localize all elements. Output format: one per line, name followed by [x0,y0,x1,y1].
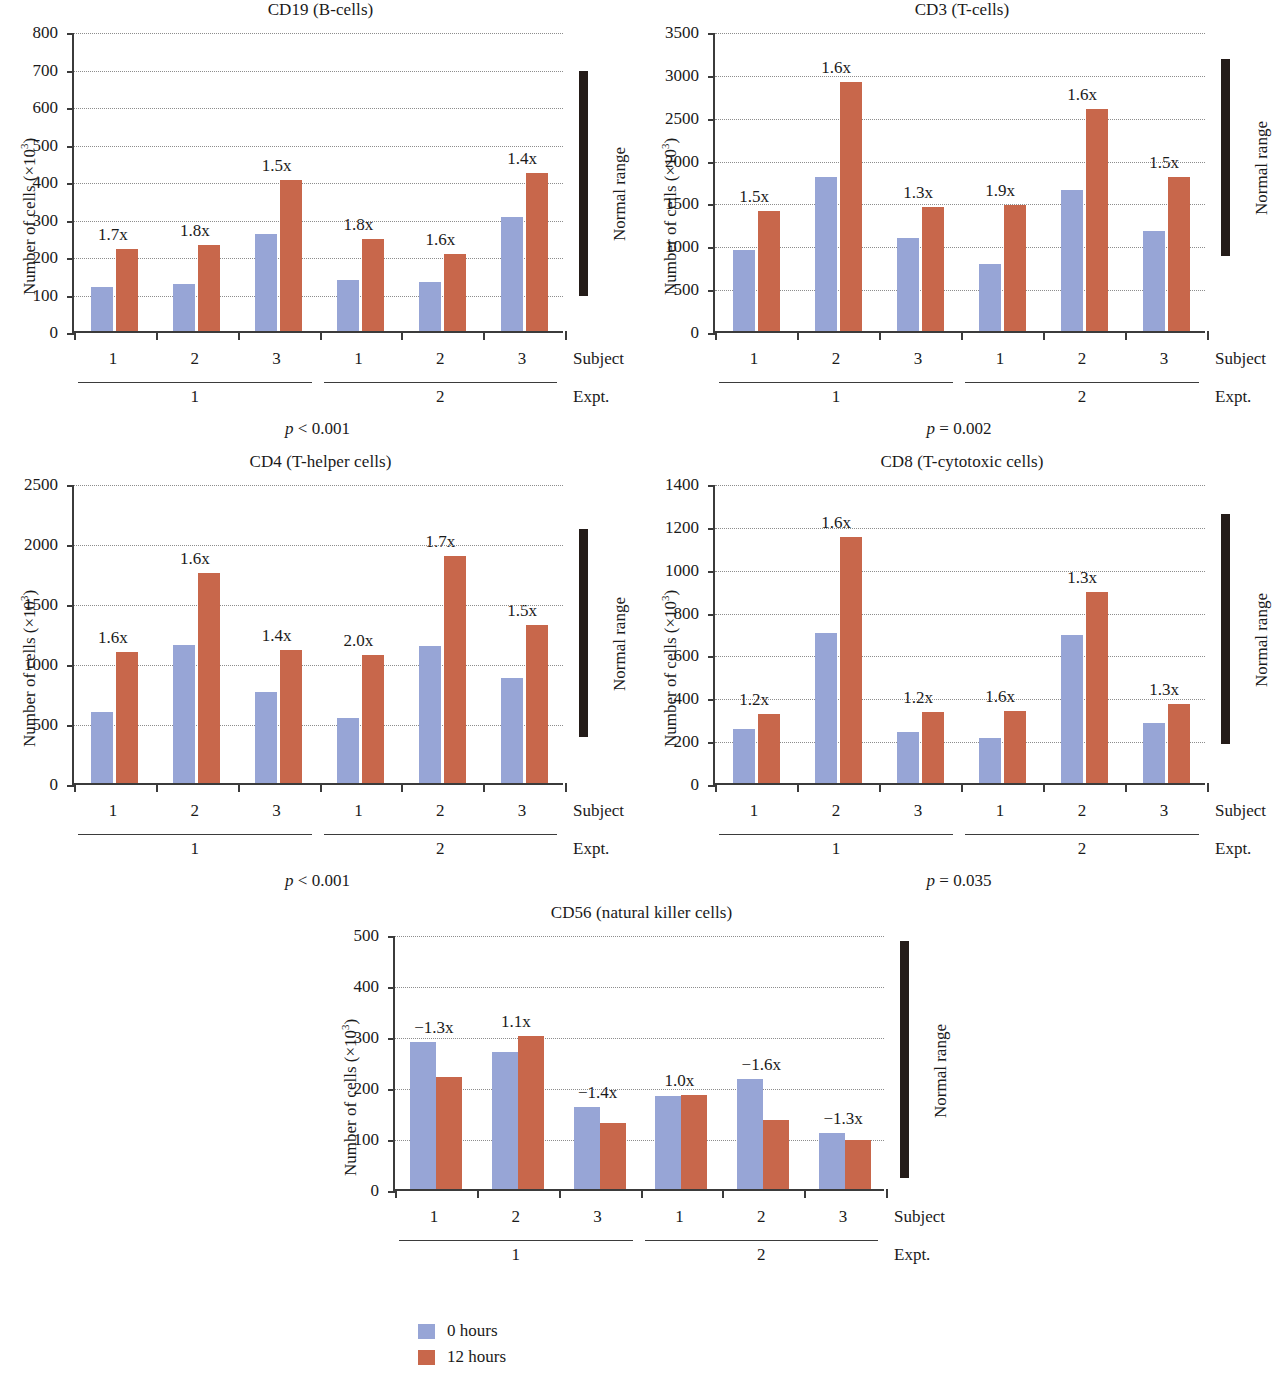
subject-tick-label: 3 [1160,801,1169,821]
x-tick [565,783,567,792]
y-tick [708,614,715,616]
y-tick [67,33,74,35]
bar-group [483,485,565,783]
y-tick [708,290,715,292]
y-tick [67,146,74,148]
y-tick [388,1191,395,1193]
bar-group [74,485,156,783]
x-tick [559,1189,561,1198]
plot-area-cd3 [713,33,1205,333]
legend-label: 0 hours [447,1321,498,1341]
y-tick [67,785,74,787]
y-tick-label: 200 [641,732,699,752]
y-tick [708,76,715,78]
legend-label: 12 hours [447,1347,506,1367]
x-tick [238,783,240,792]
bar-zero-hours [897,732,919,783]
subject-axis-caption: Subject [573,349,624,369]
bar-group [401,485,483,783]
subject-tick-label: 1 [750,349,759,369]
y-tick [708,742,715,744]
y-tick [708,333,715,335]
bar-twelve-hours [198,245,220,331]
expt-group-label: 2 [436,387,445,407]
normal-range-bar [1221,514,1230,744]
bar-group [156,33,238,331]
y-tick-label: 400 [0,173,58,193]
plot-area-cd4 [72,485,563,785]
subject-tick-label: 3 [518,801,527,821]
expt-axis-caption: Expt. [573,387,609,407]
p-value-label: p < 0.001 [285,419,350,439]
bar-twelve-hours [922,207,944,331]
subject-tick-label: 3 [914,801,923,821]
bar-group [804,936,886,1189]
subject-tick-label: 2 [757,1207,766,1227]
expt-group-label: 1 [512,1245,521,1265]
bar-twelve-hours [362,655,384,783]
bar-group [641,936,723,1189]
chart-panel-cd4: CD4 (T-helper cells)Number of cells (×10… [0,452,641,897]
subject-tick-label: 3 [518,349,527,369]
bar-twelve-hours [840,82,862,331]
bar-twelve-hours [1004,711,1026,783]
y-tick [708,162,715,164]
bar-group [797,33,879,331]
bar-twelve-hours [1004,205,1026,331]
bar-twelve-hours [280,650,302,783]
y-tick-label: 800 [641,604,699,624]
x-tick [886,1189,888,1198]
y-tick-label: 0 [321,1181,379,1201]
bar-zero-hours [1061,635,1083,783]
bar-twelve-hours [280,180,302,331]
x-tick [722,1189,724,1198]
bar-twelve-hours [362,239,384,331]
y-tick-label: 400 [641,689,699,709]
y-tick-label: 1000 [641,561,699,581]
subject-tick-label: 2 [191,349,200,369]
y-tick [67,333,74,335]
y-tick [67,71,74,73]
y-tick [388,1038,395,1040]
bar-zero-hours [897,238,919,331]
bar-zero-hours [410,1042,436,1189]
normal-range-bar [579,71,588,296]
subject-tick-label: 2 [512,1207,521,1227]
subject-tick-label: 2 [832,349,841,369]
y-tick-label: 1500 [641,194,699,214]
x-tick [565,331,567,340]
legend-swatch-blue [418,1324,435,1339]
bar-group [395,936,477,1189]
bar-group [797,485,879,783]
bar-twelve-hours [116,249,138,332]
x-tick [320,331,322,340]
chart-panel-cd8: CD8 (T-cytotoxic cells)Number of cells (… [641,452,1283,897]
x-tick [961,783,963,792]
y-tick-label: 100 [0,286,58,306]
bar-group [715,33,797,331]
y-tick [67,485,74,487]
bar-group [1125,485,1207,783]
x-tick [483,783,485,792]
bar-group [74,33,156,331]
bar-group [961,33,1043,331]
expt-group-rule [399,1240,633,1241]
bar-zero-hours [501,678,523,783]
expt-group-label: 1 [191,839,200,859]
bar-twelve-hours [600,1123,626,1189]
x-tick [715,783,717,792]
y-tick [67,725,74,727]
x-tick [879,331,881,340]
x-tick [879,783,881,792]
chart-title-cd19: CD19 (B-cells) [0,0,641,20]
p-value-label: p = 0.002 [927,419,992,439]
bar-twelve-hours [758,211,780,331]
x-tick [641,1189,643,1198]
bar-twelve-hours [1168,704,1190,783]
y-tick-label: 1200 [641,518,699,538]
bar-twelve-hours [840,537,862,783]
y-tick-label: 3000 [641,66,699,86]
x-tick [1207,331,1209,340]
subject-tick-label: 3 [272,801,281,821]
bar-zero-hours [419,282,441,331]
